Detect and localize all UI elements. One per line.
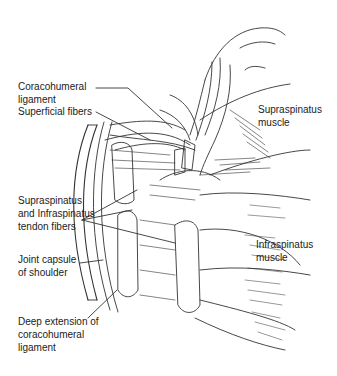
label-line: muscle <box>258 116 322 129</box>
label-joint-capsule: Joint capsule of shoulder <box>18 253 76 279</box>
label-supraspinatus-muscle: Supraspinatus muscle <box>258 103 322 129</box>
label-superficial-fibers: Superficial fibers <box>18 105 92 118</box>
label-line: and Infraspinatus <box>18 207 95 220</box>
label-tendon-fibers: Supraspinatus and Infraspinatus tendon f… <box>18 194 95 233</box>
label-line: tendon fibers <box>18 220 95 233</box>
label-line: Supraspinatus <box>18 194 95 207</box>
label-coracohumeral-ligament: Coracohumeral ligament <box>18 80 86 106</box>
label-deep-extension: Deep extension of coracohumeral ligament <box>18 315 99 354</box>
label-line: Infraspinatus <box>256 238 313 251</box>
label-line: Joint capsule <box>18 253 76 266</box>
label-line: coracohumeral <box>18 328 99 341</box>
label-line: Coracohumeral <box>18 80 86 93</box>
label-infraspinatus-muscle: Infraspinatus muscle <box>256 238 313 264</box>
label-line: ligament <box>18 341 99 354</box>
label-line: muscle <box>256 251 313 264</box>
label-line: of shoulder <box>18 266 76 279</box>
anatomy-diagram: Coracohumeral ligament Superficial fiber… <box>0 0 337 376</box>
label-line: Superficial fibers <box>18 105 92 118</box>
label-line: Supraspinatus <box>258 103 322 116</box>
label-line: Deep extension of <box>18 315 99 328</box>
